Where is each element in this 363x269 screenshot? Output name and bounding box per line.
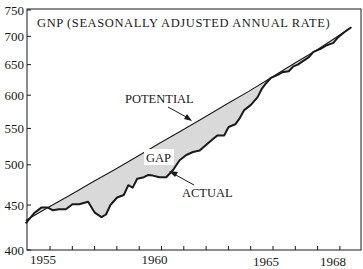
- y-tick-label: 450: [5, 198, 25, 213]
- annotation-gap: GAP: [146, 151, 171, 165]
- x-tick-label: 1955: [30, 252, 56, 267]
- actual-arrow-line: [174, 174, 194, 185]
- y-tick-label: 700: [5, 29, 25, 44]
- y-tick-label: 600: [5, 88, 25, 103]
- x-tick-label: 1960: [142, 252, 168, 267]
- chart-title: GNP (SEASONALLY ADJUSTED ANNUAL RATE): [37, 16, 330, 30]
- y-tick-label: 500: [5, 157, 25, 172]
- x-tick-label: 1968: [320, 254, 346, 269]
- x-tick-label: 1965: [253, 254, 279, 269]
- annotation-potential: POTENTIAL: [125, 92, 194, 106]
- y-tick-label: 550: [5, 121, 25, 136]
- x-axis: 1955196019651968: [30, 246, 346, 269]
- potential-arrow-head-icon: [184, 114, 192, 121]
- y-tick-label: 650: [5, 57, 25, 72]
- potential-arrow-line: [168, 107, 188, 118]
- gnp-chart: 400450500550600650700750 195519601965196…: [0, 0, 363, 269]
- annotation-actual: ACTUAL: [182, 186, 233, 200]
- y-tick-label: 750: [5, 3, 25, 18]
- y-tick-label: 400: [5, 243, 25, 258]
